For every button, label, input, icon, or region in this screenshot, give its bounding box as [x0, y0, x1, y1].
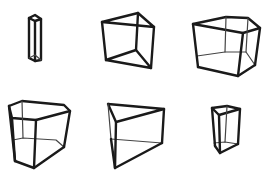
prism-6-right-edge: [238, 109, 240, 144]
prism-4-back-edge: [22, 101, 23, 138]
prism-1-top: [29, 18, 41, 21]
prism-4-right-edge: [64, 111, 70, 147]
prism-3: [193, 17, 260, 76]
prism-5-top-face: [108, 104, 164, 122]
prism-4-front-left-edge: [12, 118, 15, 161]
prism-diagram: [0, 0, 266, 179]
prism-3-back-edge-2: [246, 18, 248, 52]
prism-6-back-edge: [225, 106, 227, 142]
prism-2-left-edge: [102, 22, 106, 60]
prism-2-right-edge: [151, 27, 154, 68]
prism-2: [102, 13, 154, 68]
prism-4-top-face: [9, 101, 70, 120]
prism-3-bottom-back: [197, 52, 255, 65]
prism-3-right-edge: [255, 28, 260, 65]
prism-3-bottom-front: [198, 65, 255, 76]
prism-4: [9, 101, 70, 168]
prism-2-top-face: [102, 13, 154, 27]
prism-1: [29, 15, 41, 61]
prism-4-bottom-front: [15, 147, 64, 168]
prism-3-back-edge-1: [225, 17, 226, 52]
prism-6-bottom-front: [215, 144, 238, 153]
prism-6-front-edge: [219, 115, 220, 153]
prism-5-bottom-back: [111, 139, 162, 143]
prism-5-right-edge: [162, 109, 164, 143]
prism-3-left-edge: [193, 24, 198, 67]
prism-6-bottom-back: [214, 142, 238, 144]
prism-2-back-edge: [136, 13, 138, 50]
prism-4-bottom-back: [13, 138, 64, 147]
prism-5-bottom-front: [111, 139, 162, 168]
prism-5: [108, 104, 164, 168]
prism-6-left-edge: [212, 108, 215, 146]
prism-2-bottom-face: [106, 50, 151, 68]
prism-3-front-edge: [238, 33, 243, 76]
prism-6: [212, 106, 240, 153]
prism-4-front-right-edge: [34, 120, 36, 168]
